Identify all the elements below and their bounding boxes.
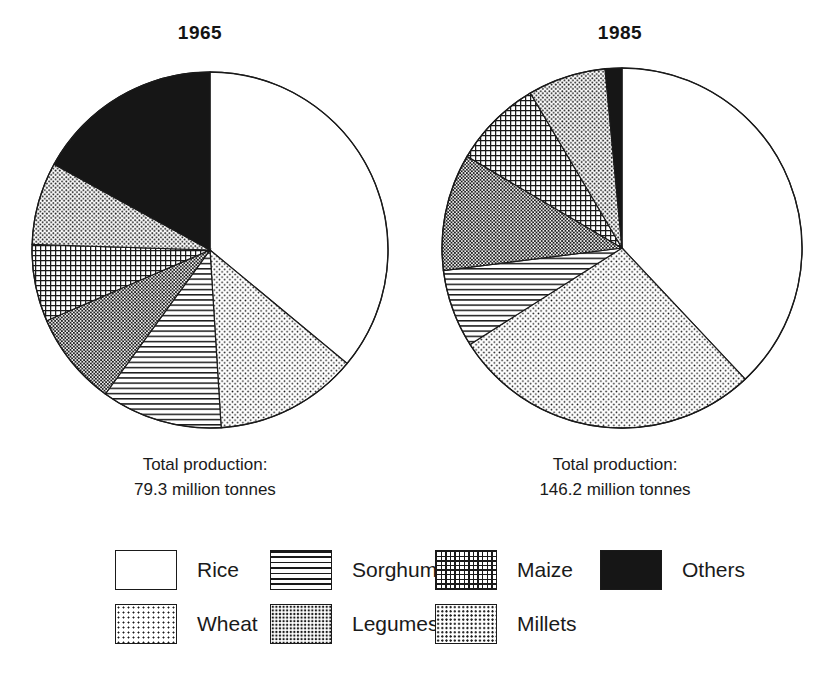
wheat-swatch — [115, 604, 177, 644]
others-swatch — [600, 550, 662, 590]
legend-item-wheat[interactable]: Wheat — [115, 602, 258, 646]
caption-1965: Total production: 79.3 million tonnes — [0, 452, 410, 502]
legend-label-wheat: Wheat — [197, 612, 258, 636]
legend-item-others[interactable]: Others — [600, 548, 745, 592]
legend-label-millets: Millets — [517, 612, 577, 636]
legumes-swatch — [270, 604, 332, 644]
sorghum-swatch — [270, 550, 332, 590]
panel-title-1985: 1985 — [415, 22, 820, 44]
legend-item-legumes[interactable]: Legumes — [270, 602, 438, 646]
legend-label-legumes: Legumes — [352, 612, 438, 636]
pie-chart-1965 — [5, 60, 405, 440]
millets-swatch — [435, 604, 497, 644]
maize-swatch — [435, 550, 497, 590]
legend-label-sorghum: Sorghum — [352, 558, 437, 582]
chart-panel-1985: 1985 Total production: 146.2 million ton… — [410, 0, 820, 520]
panel-title-1965: 1965 — [0, 22, 405, 44]
caption-1985: Total production: 146.2 million tonnes — [410, 452, 820, 502]
caption-value-1965: 79.3 million tonnes — [0, 477, 410, 502]
caption-label-1965: Total production: — [0, 452, 410, 477]
legend-item-millets[interactable]: Millets — [435, 602, 577, 646]
pie-wrap-1965 — [0, 60, 410, 440]
caption-value-1985: 146.2 million tonnes — [410, 477, 820, 502]
legend-item-rice[interactable]: Rice — [115, 548, 239, 592]
caption-label-1985: Total production: — [410, 452, 820, 477]
legend-label-others: Others — [682, 558, 745, 582]
legend-label-rice: Rice — [197, 558, 239, 582]
legend-row-top: RiceSorghumMaizeOthers — [0, 548, 820, 596]
pie-chart-1985 — [415, 60, 815, 440]
pie-wrap-1985 — [410, 60, 820, 440]
legend-item-sorghum[interactable]: Sorghum — [270, 548, 437, 592]
legend-item-maize[interactable]: Maize — [435, 548, 573, 592]
rice-swatch — [115, 550, 177, 590]
legend-label-maize: Maize — [517, 558, 573, 582]
pie-chart-figure: 1965 Total production: 79.3 million tonn… — [0, 0, 820, 681]
chart-panel-1965: 1965 Total production: 79.3 million tonn… — [0, 0, 410, 520]
legend-row-bottom: WheatLegumesMillets — [0, 602, 820, 650]
legend: RiceSorghumMaizeOthers WheatLegumesMille… — [0, 540, 820, 660]
